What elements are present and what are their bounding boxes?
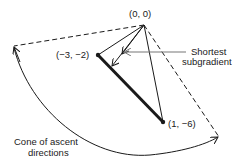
cone-boundary-left	[14, 25, 144, 46]
vector-to-g1	[98, 25, 144, 55]
label-g1: (−3, −2)	[56, 49, 89, 60]
label-g2: (1, −6)	[168, 118, 196, 129]
diagram-canvas: (0, 0) (−3, −2) (1, −6) Shortest subgrad…	[0, 0, 236, 166]
subdifferential-segment	[98, 55, 163, 122]
point-g1	[96, 53, 100, 57]
point-g2	[161, 120, 165, 124]
label-cone-line2: directions	[28, 147, 69, 158]
cone-arc-start-arrow	[14, 47, 20, 62]
label-cone-line1: Cone of ascent	[14, 136, 78, 147]
label-shortest-line2: subgradient	[182, 56, 232, 67]
ascent-vector	[122, 25, 144, 54]
label-origin: (0, 0)	[129, 8, 151, 19]
